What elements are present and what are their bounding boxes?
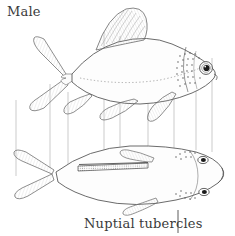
dorsal-caudal-fin-upper-lobe xyxy=(14,150,54,174)
lateral-caudal-fin-upper-lobe xyxy=(34,37,66,78)
lateral-view-fish xyxy=(30,8,217,121)
fish-illustration-figure: Male Nuptial tubercles xyxy=(0,0,235,236)
label-male: Male xyxy=(7,4,41,19)
lateral-eye-pupil xyxy=(203,65,209,71)
illustration-canvas xyxy=(0,0,235,236)
label-nuptial-tubercles: Nuptial tubercles xyxy=(84,216,203,231)
dorsal-eye-right-pupil xyxy=(202,190,207,194)
dorsal-eye-left-pupil xyxy=(201,158,206,162)
dorsal-view-fish xyxy=(14,146,224,215)
dorsal-caudal-fin-lower-lobe xyxy=(15,174,54,199)
lateral-eye-highlight xyxy=(204,66,206,68)
